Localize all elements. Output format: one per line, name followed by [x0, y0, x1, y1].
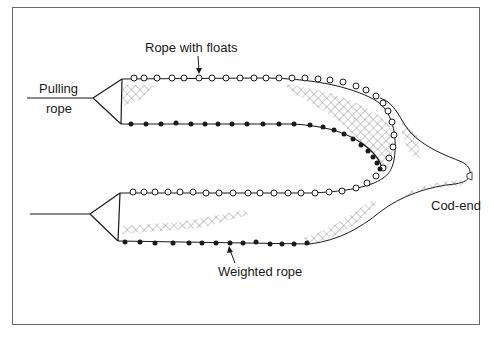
net-diagram — [0, 0, 494, 337]
lower-pulling-rope — [30, 193, 120, 241]
mesh-patch — [122, 210, 248, 234]
pulling-rope-label-line1: Pulling — [39, 82, 78, 95]
rope-with-floats-label: Rope with floats — [145, 41, 238, 54]
mesh-patch — [400, 180, 465, 198]
cod-end-label: Cod-end — [431, 199, 481, 212]
weight-arrow — [227, 246, 235, 263]
weighted-rope-label: Weighted rope — [218, 265, 302, 278]
mesh-patch — [402, 122, 420, 158]
upper-weighted-rope — [121, 124, 382, 168]
float-arrow — [196, 56, 202, 74]
mesh-patch — [123, 84, 155, 106]
upper-float-rope — [120, 78, 395, 193]
pulling-rope-label-line2: rope — [46, 102, 72, 115]
